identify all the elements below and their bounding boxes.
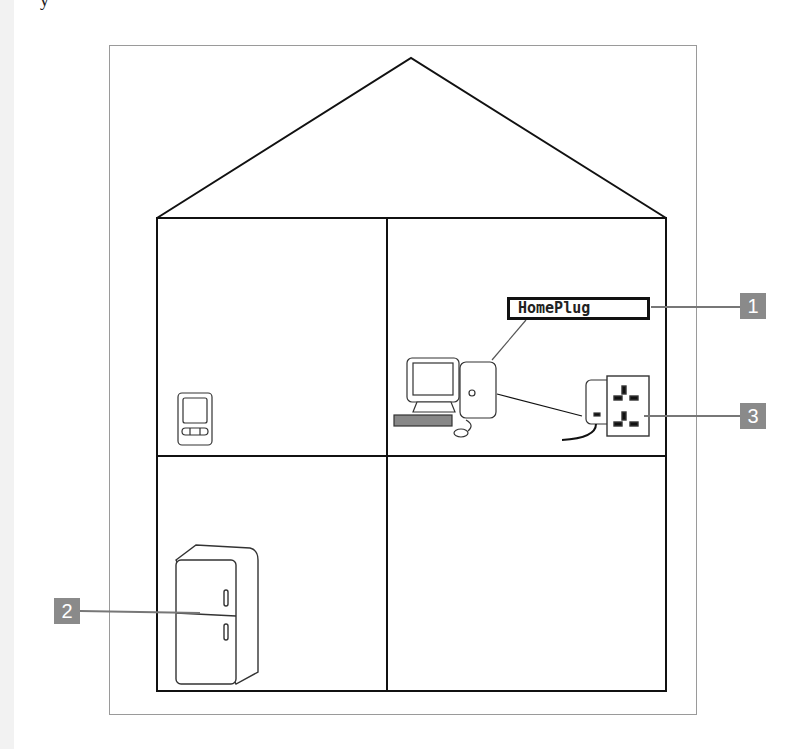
callout-3: 3 <box>740 403 766 429</box>
fridge-icon <box>176 545 258 684</box>
callout-2: 2 <box>54 598 80 624</box>
remote-icon <box>178 393 212 445</box>
house-diagram <box>0 0 803 749</box>
wall-socket-icon <box>607 376 649 436</box>
roof <box>157 58 666 218</box>
powerline-adapter-icon <box>497 380 612 440</box>
callout-1: 1 <box>740 293 766 319</box>
leader-homeplug-to-pc <box>492 320 526 360</box>
homeplug-label: HomePlug <box>507 297 650 320</box>
computer-icon <box>394 358 496 437</box>
